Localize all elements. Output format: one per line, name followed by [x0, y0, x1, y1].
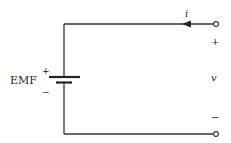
circuit-diagram: EMF + − i + v − [0, 0, 231, 143]
current-arrow-icon [182, 21, 191, 28]
bottom-terminal[interactable] [214, 132, 219, 137]
emf-minus-sign: − [42, 87, 50, 97]
terminal-minus-sign: − [211, 112, 219, 123]
battery-symbol [49, 77, 80, 83]
current-label: i [185, 8, 188, 19]
terminal-plus-sign: + [211, 36, 219, 47]
emf-plus-sign: + [42, 66, 50, 76]
top-terminal[interactable] [214, 22, 219, 27]
emf-label: EMF [10, 74, 37, 87]
wires [64, 24, 213, 134]
voltage-label: v [211, 72, 217, 83]
